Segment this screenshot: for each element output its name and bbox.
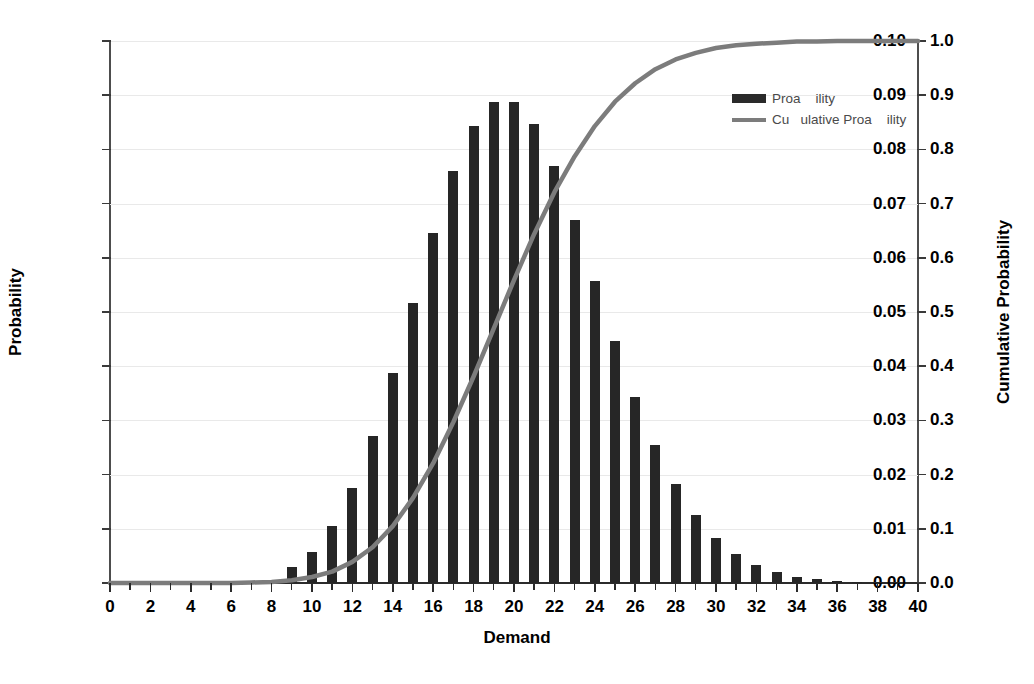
secondary-y-axis-tick [917,203,926,205]
secondary-y-axis-tick [917,474,926,476]
x-axis-tick-label: 26 [626,597,645,617]
x-axis-tick-label: 12 [343,597,362,617]
secondary-y-axis-tick [917,257,926,259]
secondary-y-axis-tick [917,311,926,313]
x-axis-tick-label: 30 [707,597,726,617]
x-axis-tick-major [271,583,273,592]
x-axis-tick-label: 34 [787,597,806,617]
x-axis-tick-label: 38 [868,597,887,617]
secondary-y-axis-tick [917,528,926,530]
x-axis-tick-major [432,583,434,592]
x-axis-tick-major [513,583,515,592]
y-axis-title: Probability [6,268,26,356]
x-axis-tick-major [473,583,475,592]
x-axis-tick-minor [170,583,171,590]
x-axis-tick-label: 32 [747,597,766,617]
x-axis-tick-minor [453,583,454,590]
legend-item-probability: Proa ility [732,88,906,109]
x-axis-tick-major [796,583,798,592]
x-axis-tick-minor [533,583,534,590]
x-axis-tick-label: 22 [545,597,564,617]
x-axis-tick-major [109,583,111,592]
x-axis-tick-major [190,583,192,592]
x-axis-tick-label: 28 [666,597,685,617]
x-axis-tick-label: 10 [303,597,322,617]
x-axis-tick-minor [331,583,332,590]
bar-swatch-icon [732,94,766,103]
x-axis-tick-minor [816,583,817,590]
x-axis-tick-minor [897,583,898,590]
x-axis-tick-major [392,583,394,592]
secondary-y-axis-tick-label: 0.5 [930,302,954,322]
x-axis-tick-minor [735,583,736,590]
secondary-y-axis-tick-label: 0.1 [930,519,954,539]
x-axis-tick-minor [614,583,615,590]
x-axis-tick-minor [291,583,292,590]
chart-figure: Probability Cumulative Probability Deman… [0,0,1034,684]
chart-legend: Proa ility Cu ulative Proa ility [732,88,906,130]
secondary-y-axis-tick-label: 0.7 [930,194,954,214]
secondary-y-axis-tick-label: 0.6 [930,248,954,268]
secondary-y-axis-tick-label: 0.2 [930,465,954,485]
x-axis-tick-minor [574,583,575,590]
x-axis-tick-minor [210,583,211,590]
x-axis-tick-minor [251,583,252,590]
secondary-y-axis-tick [917,420,926,422]
x-axis-tick-label: 14 [383,597,402,617]
secondary-y-axis-tick-label: 0.3 [930,410,954,430]
secondary-y-axis-tick [917,365,926,367]
secondary-y-axis-tick-label: 0.8 [930,139,954,159]
legend-item-cumulative-probability: Cu ulative Proa ility [732,109,906,130]
x-axis-tick-minor [372,583,373,590]
x-axis-tick-major [150,583,152,592]
x-axis-tick-major [311,583,313,592]
x-axis-tick-major [675,583,677,592]
legend-label-cumulative-probability: Cu ulative Proa ility [772,109,906,130]
x-axis-tick-major [352,583,354,592]
x-axis-tick-minor [655,583,656,590]
x-axis-tick-label: 16 [424,597,443,617]
x-axis-tick-label: 8 [267,597,276,617]
secondary-y-axis-title: Cumulative Probability [994,220,1014,404]
x-axis-tick-label: 4 [186,597,195,617]
x-axis-tick-minor [695,583,696,590]
x-axis-tick-major [230,583,232,592]
secondary-y-axis-tick-label: 1.0 [930,31,954,51]
x-axis-tick-label: 6 [226,597,235,617]
x-axis-tick-label: 40 [909,597,928,617]
x-axis-tick-minor [493,583,494,590]
secondary-y-axis-tick-label: 0.9 [930,85,954,105]
x-axis-tick-major [836,583,838,592]
secondary-y-axis-tick [917,149,926,151]
x-axis-tick-label: 0 [105,597,114,617]
x-axis-tick-major [634,583,636,592]
x-axis-tick-minor [412,583,413,590]
x-axis-tick-major [877,583,879,592]
x-axis-tick-major [554,583,556,592]
x-axis-tick-major [917,583,919,592]
x-axis-tick-major [715,583,717,592]
legend-label-probability: Proa ility [772,88,835,109]
x-axis-tick-label: 2 [146,597,155,617]
x-axis-tick-major [756,583,758,592]
x-axis-tick-label: 36 [828,597,847,617]
x-axis-tick-minor [857,583,858,590]
secondary-y-axis-tick [917,94,926,96]
x-axis-tick-minor [776,583,777,590]
secondary-y-axis-tick-label: 0.4 [930,356,954,376]
x-axis-tick-minor [129,583,130,590]
x-axis-tick-major [594,583,596,592]
x-axis-tick-label: 24 [585,597,604,617]
x-axis-ticks: 0246810121416182022242628303234363840 [110,583,918,623]
x-axis-tick-label: 18 [464,597,483,617]
line-swatch-icon [732,118,766,122]
x-axis-tick-label: 20 [505,597,524,617]
x-axis-title: Demand [483,628,550,648]
secondary-y-axis-tick-label: 0.0 [930,573,954,593]
